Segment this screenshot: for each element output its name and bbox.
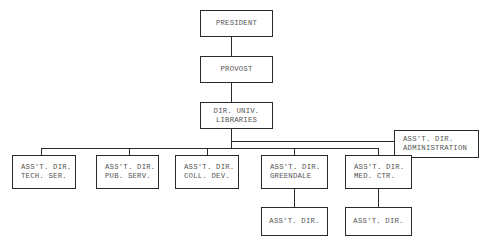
node-label: PRESIDENT bbox=[216, 19, 257, 28]
node-label: ASS'T. DIR. bbox=[105, 163, 155, 172]
connector-administration-branch bbox=[231, 141, 394, 142]
node-asst-dir-administration: ASS'T. DIR. ADMINISTRATION bbox=[394, 130, 479, 158]
node-label: MED. CTR. bbox=[354, 172, 395, 181]
connector-pub-serv bbox=[129, 148, 130, 155]
connector-coll-dev bbox=[207, 148, 208, 155]
node-label: ADMINISTRATION bbox=[403, 144, 467, 153]
node-label: COLL. DEV. bbox=[184, 172, 230, 181]
node-label: GREENDALE bbox=[270, 172, 311, 181]
node-label: ASS'T. DIR. bbox=[184, 163, 234, 172]
node-provost: PROVOST bbox=[200, 56, 273, 83]
node-label: TECH. SER. bbox=[21, 172, 67, 181]
connector-director-trunk bbox=[231, 128, 232, 148]
node-label: ASS'T. DIR. bbox=[354, 163, 404, 172]
node-asst-dir-tech-ser: ASS'T. DIR. TECH. SER. bbox=[12, 155, 76, 189]
node-director-univ-libraries: DIR. UNIV. LIBRARIES bbox=[200, 102, 273, 129]
node-label: LIBRARIES bbox=[216, 116, 257, 125]
connector-tech-ser bbox=[41, 148, 42, 155]
connector-assistant-bus bbox=[41, 148, 379, 149]
node-label: ASS'T. DIR. bbox=[353, 217, 403, 226]
node-label: PUB. SERV. bbox=[105, 172, 151, 181]
connector-provost-director bbox=[231, 82, 232, 102]
connector-greendale bbox=[294, 148, 295, 155]
connector-president-provost bbox=[231, 36, 232, 56]
node-label: ASS'T. DIR. bbox=[270, 163, 320, 172]
node-asst-dir-pub-serv: ASS'T. DIR. PUB. SERV. bbox=[96, 155, 159, 189]
node-asst-dir-under-greendale: ASS'T. DIR. bbox=[261, 207, 328, 236]
node-asst-dir-under-med-ctr: ASS'T. DIR. bbox=[345, 207, 412, 236]
node-label: DIR. UNIV. bbox=[214, 107, 260, 116]
node-label: ASS'T. DIR. bbox=[403, 135, 453, 144]
connector-greendale-sub bbox=[294, 188, 295, 207]
node-label: PROVOST bbox=[220, 65, 252, 74]
node-asst-dir-greendale: ASS'T. DIR. GREENDALE bbox=[261, 155, 328, 189]
node-asst-dir-med-ctr: ASS'T. DIR. MED. CTR. bbox=[345, 155, 412, 189]
connector-med-ctr bbox=[378, 148, 379, 155]
node-label: ASS'T. DIR. bbox=[269, 217, 319, 226]
node-label: ASS'T. DIR. bbox=[21, 163, 71, 172]
node-asst-dir-coll-dev: ASS'T. DIR. COLL. DEV. bbox=[175, 155, 239, 189]
node-president: PRESIDENT bbox=[200, 10, 273, 37]
connector-med-ctr-sub bbox=[378, 188, 379, 207]
